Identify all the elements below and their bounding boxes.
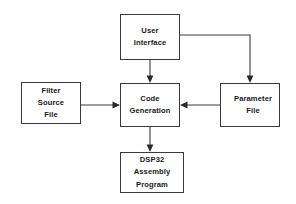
node-user-interface-line-1: User (141, 25, 158, 37)
node-filter-source-file-line-3: File (44, 109, 57, 121)
edge-code-generation-to-dsp32 (147, 127, 154, 152)
flow-diagram: User Interface Filter Source File Code G… (0, 0, 296, 204)
node-parameter-file-line-2: File (246, 105, 259, 117)
node-code-generation-line-2: Generation (129, 105, 170, 117)
edge-ui-to-parameter-file (180, 35, 253, 83)
node-user-interface[interactable]: User Interface (120, 14, 180, 60)
node-dsp32-assembly-program-line-3: Program (136, 179, 168, 191)
node-code-generation[interactable]: Code Generation (120, 83, 180, 127)
node-parameter-file-line-1: Parameter (234, 93, 272, 105)
node-user-interface-line-2: Interface (134, 37, 167, 49)
node-dsp32-assembly-program[interactable]: DSP32 Assembly Program (120, 152, 184, 193)
edge-ui-to-code-generation (147, 60, 154, 83)
node-filter-source-file-line-2: Source (38, 97, 64, 109)
node-dsp32-assembly-program-line-1: DSP32 (140, 154, 165, 166)
node-dsp32-assembly-program-line-2: Assembly (134, 166, 171, 178)
node-filter-source-file[interactable]: Filter Source File (21, 82, 81, 124)
node-parameter-file[interactable]: Parameter File (220, 83, 280, 127)
node-filter-source-file-line-1: Filter (41, 85, 60, 97)
edge-parameter-to-code-generation (180, 102, 220, 109)
node-code-generation-line-1: Code (140, 93, 159, 105)
edge-filter-to-code-generation (81, 102, 120, 109)
